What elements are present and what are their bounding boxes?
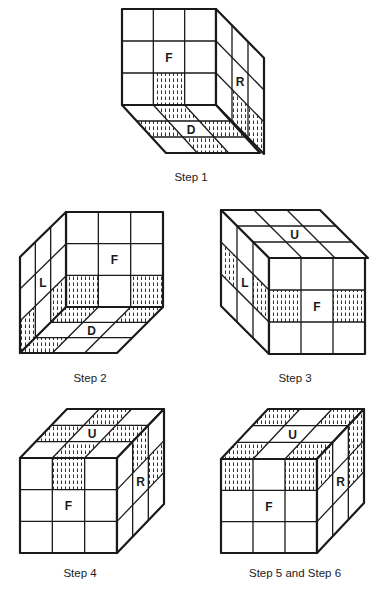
face-front: F [269,258,365,354]
face-label-r: R [236,75,245,89]
face-label-r: R [136,475,145,489]
face-label-u: U [88,427,97,441]
face-label-d: D [87,324,96,338]
face-label-u: U [288,428,297,442]
face-front: F [122,9,216,105]
shaded-cell [285,459,317,490]
caption-step1: Step 1 [174,171,207,183]
cube-step1: FRD [122,9,264,154]
face-label-f: F [65,499,72,513]
face-front: F [66,212,163,307]
caption-step2: Step 2 [73,372,106,384]
cube-step3: ULF [221,210,368,354]
caption-step5-6: Step 5 and Step 6 [249,567,341,579]
face-label-u: U [290,228,299,242]
cube-step2: FLD [20,212,163,353]
shaded-cell [131,275,163,307]
shaded-cell [153,73,184,105]
rubiks-cube-steps-diagram: FRDFLDULFUFRUFR [0,0,388,600]
face-label-l: L [241,276,248,290]
face-label-f: F [265,500,272,514]
face-label-l: L [39,276,46,290]
face-label-f: F [313,300,320,314]
figures-layer: FRDFLDULFUFRUFR [20,9,368,553]
face-label-d: D [187,123,196,137]
shaded-cell [221,459,253,490]
shaded-cell [66,275,98,307]
caption-step3: Step 3 [278,372,311,384]
caption-step4: Step 4 [63,567,96,579]
face-label-f: F [111,253,118,267]
shaded-cell [269,290,301,322]
face-label-f: F [165,51,172,65]
face-front: F [221,459,317,553]
face-label-r: R [336,475,345,489]
shaded-cell [333,290,365,322]
face-front: F [20,458,117,553]
cube-step5-6: UFR [221,409,364,553]
shaded-cell [52,458,84,490]
cube-step4: UFR [20,409,164,553]
